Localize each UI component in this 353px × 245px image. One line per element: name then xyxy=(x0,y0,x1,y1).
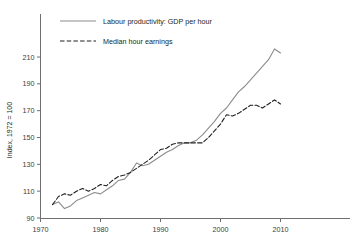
y-tick-label: 90 xyxy=(27,214,35,223)
y-tick-label: 110 xyxy=(23,187,34,196)
y-tick-label: 170 xyxy=(23,106,35,115)
x-tick-label: 1990 xyxy=(153,225,169,234)
y-tick-label: 150 xyxy=(23,133,35,142)
line-chart: Index, 1972 = 100 90110130150170190210 1… xyxy=(0,0,353,245)
y-axis-title: Index, 1972 = 100 xyxy=(6,102,13,158)
y-tick-label: 210 xyxy=(23,53,35,62)
x-tick-label: 1980 xyxy=(93,225,109,234)
chart-background xyxy=(0,0,353,245)
chart-figure: Index, 1972 = 100 90110130150170190210 1… xyxy=(0,0,353,245)
x-tick-label: 1970 xyxy=(33,225,49,234)
x-tick-label: 2000 xyxy=(213,225,229,234)
y-tick-label: 130 xyxy=(23,160,35,169)
x-tick-label: 2010 xyxy=(273,225,289,234)
y-tick-label: 190 xyxy=(23,79,35,88)
legend-label: Labour productivity: GDP per hour xyxy=(103,17,213,26)
legend-label: Median hour earnings xyxy=(103,37,173,46)
